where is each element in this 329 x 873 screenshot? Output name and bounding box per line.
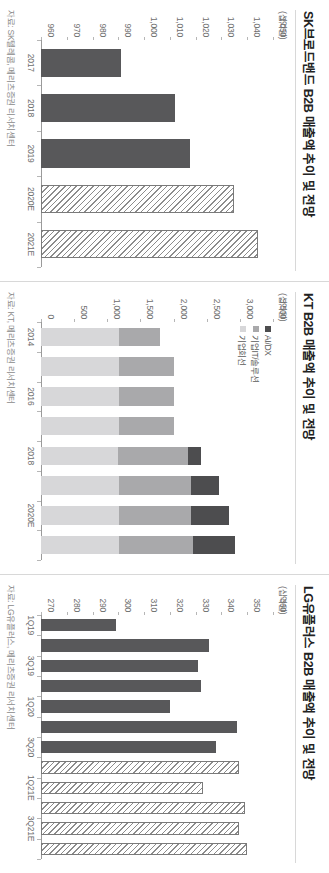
- bar-2016: [41, 387, 174, 405]
- y-axis-tick-mark: [240, 319, 241, 322]
- x-axis-tick-mark: [37, 615, 41, 616]
- y-axis-tick-label: 330: [201, 585, 211, 612]
- bar-2019: [41, 476, 219, 494]
- bar-3q21e: [41, 822, 239, 835]
- legend-kt: AI/DX 기업IT/솔루션 기업회선: [237, 326, 273, 383]
- y-axis-tick-mark: [67, 612, 68, 615]
- x-axis-tick-label: 2016: [26, 387, 36, 405]
- x-axis-tick-label: 3Q21E: [26, 816, 36, 841]
- y-axis-tick-label: 3,000: [245, 292, 255, 319]
- bar-2017: [41, 417, 174, 435]
- x-axis-tick-mark: [37, 222, 41, 223]
- bar-4q19: [41, 680, 201, 693]
- y-axis-tick-mark: [247, 612, 248, 615]
- y-axis-tick-label: 960: [46, 10, 56, 37]
- bar-2q21e: [41, 802, 245, 815]
- y-axis-tick-mark: [273, 319, 274, 322]
- x-axis-tick-label: 1Q21E: [26, 775, 36, 800]
- legend-item-enterprise-line[interactable]: 기업회선: [237, 326, 249, 383]
- bar-segment: [41, 328, 119, 346]
- y-axis-tick-mark: [144, 612, 145, 615]
- x-axis-tick-label: 3Q20: [26, 737, 36, 757]
- y-axis-unit-kt: (십억원): [278, 293, 290, 564]
- y-axis-tick-mark: [41, 319, 42, 322]
- bar-segment: [119, 536, 193, 554]
- y-axis-tick-label: 3,500: [278, 292, 288, 319]
- x-axis-tick-mark: [37, 757, 41, 758]
- x-axis-tick-label: 2021E: [26, 233, 36, 257]
- bar-segment: [119, 506, 191, 524]
- y-axis-tick-mark: [221, 612, 222, 615]
- y-axis-tick-mark: [118, 612, 119, 615]
- source-note-kt: 자료: KT, 메리츠증권 리서치센터: [6, 292, 18, 564]
- y-axis-tick-label: 340: [226, 585, 236, 612]
- bar-segment: [188, 447, 201, 465]
- bar-segment: [191, 506, 229, 524]
- y-axis-tick-label: 310: [149, 585, 159, 612]
- y-axis-tick-label: 1,020: [201, 10, 211, 37]
- y-axis-tick-mark: [273, 37, 274, 40]
- x-axis-tick-label: 2018: [26, 447, 36, 465]
- y-axis-tick-mark: [107, 319, 108, 322]
- x-axis-tick-mark: [37, 471, 41, 472]
- y-axis-tick-mark: [170, 37, 171, 40]
- y-axis-tick-mark: [170, 612, 171, 615]
- bar-segment: [119, 357, 174, 375]
- bar-1q20: [41, 700, 170, 713]
- x-axis-tick-mark: [37, 267, 41, 268]
- y-axis-tick-label: 350: [252, 585, 262, 612]
- y-axis-tick-mark: [247, 37, 248, 40]
- chart-panel-lgu: LG유플러스 B2B 매출액 추이 및 전망 (십억원) 27028029030…: [0, 574, 329, 873]
- x-axis-tick-mark: [37, 818, 41, 819]
- x-axis-tick-mark: [37, 778, 41, 779]
- x-axis-tick-mark: [37, 176, 41, 177]
- legend-swatch-icon: [265, 326, 271, 332]
- bar-segment: [119, 328, 160, 346]
- x-axis-tick-mark: [37, 696, 41, 697]
- y-axis-tick-mark: [207, 319, 208, 322]
- bar-2017: [41, 49, 121, 77]
- x-axis-tick-mark: [37, 441, 41, 442]
- x-axis-tick-mark: [37, 530, 41, 531]
- legend-swatch-icon: [253, 326, 259, 332]
- x-axis-tick-mark: [37, 656, 41, 657]
- y-axis-tick-label: 290: [98, 585, 108, 612]
- y-axis-tick-label: 1,050: [278, 10, 288, 37]
- bar-3q19: [41, 660, 198, 673]
- y-axis-tick-mark: [93, 612, 94, 615]
- y-axis-tick-label: 980: [98, 10, 108, 37]
- bar-segment: [191, 476, 220, 494]
- y-axis-tick-mark: [93, 37, 94, 40]
- bar-2020e: [41, 185, 234, 213]
- bar-1q21e: [41, 782, 203, 795]
- legend-item-ai-dx[interactable]: AI/DX: [263, 326, 273, 383]
- bar-segment: [118, 447, 188, 465]
- y-axis-tick-label: 1,000: [149, 10, 159, 37]
- legend-label: 기업IT/솔루션: [250, 335, 262, 383]
- x-axis-tick-mark: [37, 85, 41, 86]
- x-axis-tick-mark: [37, 839, 41, 840]
- plot-area-skb: 9609709809901,0001,0101,0201,0301,0401,0…: [21, 10, 277, 271]
- x-axis-tick-mark: [37, 352, 41, 353]
- plot-skb: 9609709809901,0001,0101,0201,0301,0401,0…: [41, 40, 273, 267]
- y-axis-tick-mark: [196, 612, 197, 615]
- chart-title-lgu: LG유플러스 B2B 매출액 추이 및 전망: [300, 586, 319, 863]
- bar-2020e: [41, 506, 229, 524]
- legend-item-enterprise-it[interactable]: 기업IT/솔루션: [250, 326, 262, 383]
- x-axis-tick-label: 2020E: [26, 504, 36, 528]
- title-divider: [295, 292, 296, 564]
- y-axis-tick-mark: [144, 37, 145, 40]
- bar-2q20: [41, 721, 237, 734]
- bar-2014: [41, 328, 160, 346]
- bar-segment: [41, 447, 118, 465]
- y-axis-tick-mark: [118, 37, 119, 40]
- source-note-lgu: 자료: LG유플러스, 메리츠증권 리서치센터: [6, 585, 18, 863]
- x-axis-tick-label: 2017: [26, 54, 36, 72]
- bar-segment: [41, 357, 119, 375]
- x-axis-tick-label: 1Q19: [26, 615, 36, 635]
- bar-segment: [41, 387, 119, 405]
- bar-segment: [41, 476, 119, 494]
- bar-4q21e: [41, 843, 247, 856]
- legend-label: AI/DX: [263, 335, 273, 356]
- bar-3q20: [41, 741, 216, 754]
